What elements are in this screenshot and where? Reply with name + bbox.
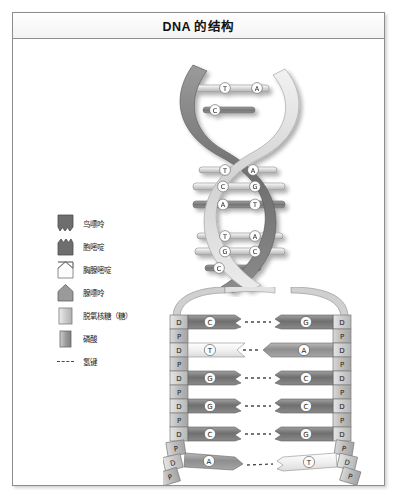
- figure-title-bar: DNA 的结构: [13, 13, 384, 39]
- diagram-canvas: T A C T A C G A: [13, 39, 384, 486]
- helix-svg: T A C T A C G A: [163, 47, 323, 297]
- hydrogen-bond-5: [247, 464, 273, 465]
- backbone-left-1: P: [177, 333, 181, 341]
- helix-base-3-left: C: [221, 183, 226, 191]
- backbone-right-6: D: [339, 403, 344, 411]
- thymine-swatch-icon: [57, 260, 74, 279]
- legend-label-hydrogen-bond: 氢键: [83, 356, 97, 367]
- dna-ladder: D P D P D P D P D: [163, 287, 363, 485]
- legend-label-cytosine: 胞嘧啶: [83, 241, 104, 252]
- phosphate-swatch-icon: [57, 329, 74, 348]
- backbone-left-8: D: [176, 431, 181, 439]
- helix-base-2-left: T: [222, 167, 227, 175]
- helix-base-0-left: T: [222, 85, 227, 93]
- helix-base-7-left: C: [217, 265, 222, 273]
- ladder-row-3-right-base: C: [304, 403, 309, 411]
- legend-label-adenine: 腺嘌呤: [83, 287, 104, 298]
- backbone-right: D P D P D P D P D: [333, 315, 361, 485]
- legend-item-hydrogen-bond: 氢键: [57, 350, 177, 373]
- helix-base-5-left: T: [222, 233, 227, 241]
- ladder-row: A T: [184, 453, 337, 471]
- backbone-right-2: D: [339, 347, 344, 355]
- legend-label-guanine: 鸟嘌呤: [83, 218, 104, 229]
- backbone-left-7: P: [177, 417, 181, 425]
- backbone-left-5: P: [177, 389, 181, 397]
- ladder-row: G C: [188, 399, 333, 413]
- backbone-right-5: P: [340, 389, 344, 397]
- backbone-left-6: D: [176, 403, 181, 411]
- cytosine-swatch-icon: [57, 237, 74, 256]
- helix-base-6-left: G: [222, 248, 227, 256]
- legend-item-adenine: 腺嘌呤: [57, 281, 177, 304]
- hydrogen-bond-swatch-icon: [57, 352, 74, 371]
- ladder-row: T A: [188, 343, 333, 357]
- legend-label-thymine: 胸腺嘧啶: [83, 264, 111, 275]
- ladder-row-5-left-base: A: [207, 458, 212, 466]
- backbone-right-3: P: [340, 361, 344, 369]
- ladder-row: G C: [188, 371, 333, 385]
- backbone-right-4: D: [339, 375, 344, 383]
- backbone-right-0: D: [339, 319, 344, 327]
- helix-base-2-right: A: [251, 167, 256, 175]
- backbone-right-8: D: [339, 431, 344, 439]
- ladder-row-0-right-base: G: [303, 319, 308, 327]
- backbone-left-4: D: [176, 375, 181, 383]
- deoxyribose-swatch-icon: [57, 306, 74, 325]
- legend-item-deoxyribose: 脱氧核糖（糖）: [57, 304, 177, 327]
- legend-item-cytosine: 胞嘧啶: [57, 235, 177, 258]
- figure-frame: DNA 的结构: [12, 12, 385, 486]
- ladder-row-5-right-base: T: [306, 459, 312, 467]
- legend-label-deoxyribose: 脱氧核糖（糖）: [83, 310, 132, 321]
- ladder-row-1-left-base: T: [207, 347, 213, 355]
- ladder-row-4-right-base: G: [303, 431, 308, 439]
- ladder-row: C G: [188, 315, 333, 329]
- helix-base-1-left: C: [213, 107, 218, 115]
- guanine-swatch-icon: [57, 214, 74, 233]
- legend: 鸟嘌呤 胞嘧啶 胸腺嘧啶: [57, 212, 177, 373]
- helix-base-5-right: A: [253, 233, 258, 241]
- backbone-left-2: D: [176, 347, 181, 355]
- ladder-svg: D P D P D P D P D: [163, 287, 363, 485]
- ladder-row-1-right-base: A: [302, 347, 307, 355]
- ladder-row-4-left-base: C: [208, 431, 213, 439]
- page-title: DNA 的结构: [163, 16, 235, 35]
- ladder-row-3-left-base: G: [207, 403, 212, 411]
- legend-item-phosphate: 磷酸: [57, 327, 177, 350]
- ladder-row-2-right-base: C: [304, 375, 309, 383]
- helix-base-6-right: C: [253, 248, 258, 256]
- ladder-strand-loop: [173, 287, 348, 318]
- helix-base-4-left: A: [221, 201, 226, 209]
- dna-double-helix: T A C T A C G A: [163, 47, 323, 297]
- legend-item-guanine: 鸟嘌呤: [57, 212, 177, 235]
- backbone-right-1: P: [340, 333, 344, 341]
- backbone-right-7: P: [340, 417, 344, 425]
- backbone-left-0: D: [176, 319, 181, 327]
- legend-item-thymine: 胸腺嘧啶: [57, 258, 177, 281]
- helix-base-4-right: T: [252, 201, 257, 209]
- legend-label-phosphate: 磷酸: [83, 333, 97, 344]
- backbone-left-3: P: [177, 361, 181, 369]
- ladder-row: C G: [188, 427, 333, 441]
- helix-base-3-right: G: [252, 183, 257, 191]
- ladder-row-0-left-base: C: [208, 319, 213, 327]
- helix-base-0-right: A: [255, 85, 260, 93]
- adenine-swatch-icon: [57, 283, 74, 302]
- ladder-row-2-left-base: G: [207, 375, 212, 383]
